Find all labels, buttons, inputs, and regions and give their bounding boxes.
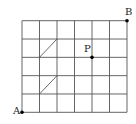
point-a: [20, 111, 24, 115]
diagonal-segment: [40, 39, 58, 57]
grid-diagram: APB: [0, 0, 136, 124]
point-label-a: A: [12, 105, 21, 116]
grid-lines: [22, 21, 127, 113]
point-label-b: B: [125, 6, 132, 17]
diagonal-segment: [40, 76, 58, 94]
point-b: [125, 19, 129, 23]
diagonal-segments: [40, 39, 58, 94]
labeled-points: APB: [12, 6, 132, 117]
point-p: [90, 56, 94, 60]
point-label-p: P: [84, 43, 91, 54]
